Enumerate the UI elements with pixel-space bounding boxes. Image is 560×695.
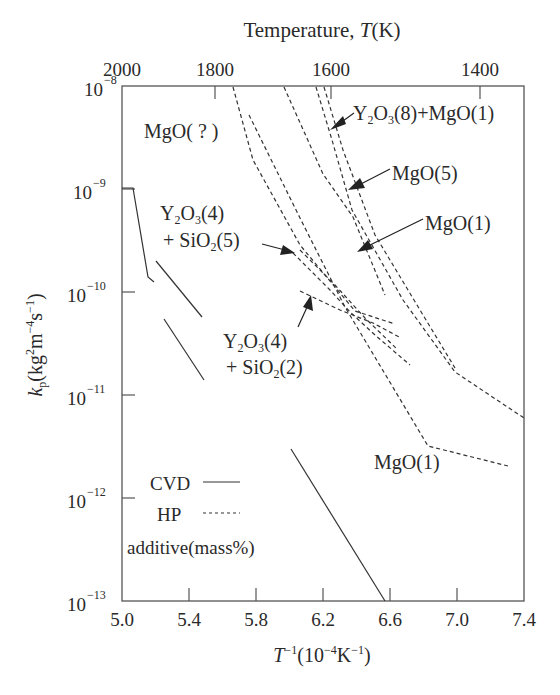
annotation-y2o3-4-sio2-2-line1: Y2O3(4) [223,330,287,355]
svg-text:−10: −10 [87,279,106,293]
svg-text:6.2: 6.2 [311,609,335,630]
svg-text:−12: −12 [87,485,106,499]
cvd-line-1 [122,188,154,282]
arrowhead-mgo-1 [357,240,373,252]
cvd-line-2 [156,261,202,317]
svg-text:−13: −13 [87,588,106,602]
legend-hp-label: HP [157,504,181,525]
svg-text:5.0: 5.0 [110,609,134,630]
top-axis-title: Temperature, T(K) [243,18,400,42]
arrow-y2o3-4-sio2-5 [262,244,285,250]
svg-text:5.4: 5.4 [177,609,201,630]
top-ticks [215,86,480,99]
svg-text:6.6: 6.6 [378,609,402,630]
y-tick-labels: 10 −8 10 −9 10 −10 10 −11 10 −12 10 −13 [67,73,117,615]
annotation-y2o3-4-sio2-5-line2: + SiO2(5) [163,229,240,254]
svg-text:10: 10 [67,594,86,615]
annotation-y2o3-4-sio2-5-line1: Y2O3(4) [160,202,224,227]
legend: CVD HP additive(mass%) [127,473,255,559]
top-tick-1800: 1800 [196,59,234,80]
svg-text:−9: −9 [93,176,106,190]
annotation-y2o3-4-sio2-2-line2: + SiO2(2) [226,356,303,381]
plot-frame [122,86,524,601]
annotation-mgo-unknown: MgO( ? ) [144,120,218,143]
svg-text:5.8: 5.8 [244,609,268,630]
top-tick-1600: 1600 [312,59,350,80]
svg-text:10: 10 [67,388,86,409]
svg-text:10: 10 [67,491,86,512]
svg-text:10: 10 [84,79,103,100]
hp-line-y4s2 [300,291,401,338]
svg-text:−8: −8 [104,73,117,87]
annotation-y2o3-8-mgo-1: Y2O3(8)+MgO(1) [353,102,494,127]
y-axis-label: kp(kg2m−4s−1) [23,293,49,396]
arrowhead-y2o3-8 [330,116,346,130]
svg-text:10: 10 [67,285,86,306]
bottom-ticks [189,588,457,601]
hp-line-mgo1 [249,115,508,466]
arrowhead-y2o3-4-sio2-2 [303,295,313,311]
x-axis-label: T−1(10−4K−1) [273,643,370,667]
oxidation-rate-chart: Temperature, T(K) 2000 1800 1600 1400 5.… [0,0,560,695]
hp-series [233,87,524,466]
arrowhead-mgo-5 [348,178,365,190]
svg-text:−11: −11 [87,382,105,396]
cvd-line-3 [164,319,204,380]
annotation-mgo-5: MgO(5) [392,162,458,185]
x-tick-labels: 5.0 5.4 5.8 6.2 6.6 7.0 7.4 [110,609,536,630]
annotation-mgo-1-top: MgO(1) [425,212,491,235]
legend-note: additive(mass%) [127,537,255,559]
svg-text:7.4: 7.4 [512,609,536,630]
left-ticks [122,189,135,498]
annotation-mgo-1-bottom: MgO(1) [374,451,440,474]
cvd-line-4 [291,449,385,601]
legend-cvd-label: CVD [150,473,190,494]
svg-text:10: 10 [73,182,92,203]
svg-text:7.0: 7.0 [445,609,469,630]
hp-line-y8-a [316,87,524,418]
top-tick-1400: 1400 [461,59,499,80]
